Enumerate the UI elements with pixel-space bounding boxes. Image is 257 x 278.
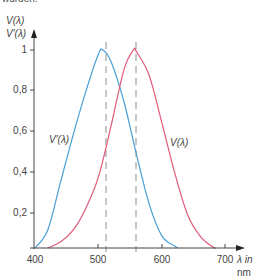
y-tick-0-6: 0,6 bbox=[13, 125, 27, 136]
y-axis-title-v-prime: V′(λ) bbox=[6, 28, 26, 39]
sensitivity-chart: 1 0,8 0,6 0,4 0,2 400 500 600 700 V(λ) V… bbox=[0, 0, 257, 278]
y-axis-title-v: V(λ) bbox=[6, 15, 24, 26]
y-tick-1: 1 bbox=[21, 44, 27, 55]
y-tick-0-8: 0,8 bbox=[13, 84, 27, 95]
v-prime-curve-label: V′(λ) bbox=[49, 134, 69, 145]
v-curve-label: V(λ) bbox=[170, 137, 188, 148]
x-axis-title-lambda: λ in bbox=[236, 254, 253, 265]
x-tick-600: 600 bbox=[154, 254, 171, 265]
v-curve bbox=[48, 48, 216, 248]
x-ticks bbox=[98, 244, 225, 248]
x-tick-700: 700 bbox=[217, 254, 234, 265]
x-axis-title-unit: nm bbox=[237, 267, 251, 278]
y-ticks bbox=[30, 50, 34, 213]
x-tick-400: 400 bbox=[27, 254, 44, 265]
x-axis-arrow-icon bbox=[236, 245, 245, 251]
y-axis-arrow-icon bbox=[31, 29, 37, 38]
y-tick-0-4: 0,4 bbox=[13, 166, 27, 177]
y-tick-0-2: 0,2 bbox=[13, 207, 27, 218]
x-tick-500: 500 bbox=[90, 254, 107, 265]
